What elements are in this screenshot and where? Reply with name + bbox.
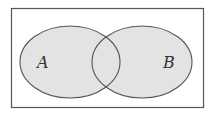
set-a-label: A: [35, 53, 49, 72]
venn-diagram: A B: [0, 0, 212, 116]
set-b-label: B: [162, 53, 175, 72]
